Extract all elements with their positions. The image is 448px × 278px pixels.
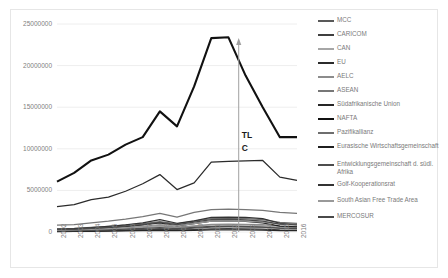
annotation-c: C	[242, 143, 248, 153]
legend-item[interactable]: AELC	[318, 72, 444, 80]
y-axis-tick: 15000000	[0, 103, 52, 110]
x-axis-tick: 2010	[197, 224, 204, 238]
y-axis-tick: 0	[0, 228, 52, 235]
x-axis-tick: 2011	[214, 224, 221, 238]
x-axis-tick: 2002	[60, 224, 67, 238]
legend-item[interactable]: EU	[318, 58, 444, 66]
legend-item-label: EU	[337, 58, 346, 66]
legend-swatch-icon	[318, 104, 334, 106]
legend-item-label: Eurasische Wirtschaftsgemeinschaft	[337, 142, 439, 150]
y-axis-tick: 5000000	[0, 186, 52, 193]
legend-swatch-icon	[318, 164, 334, 166]
legend-swatch-icon	[318, 184, 334, 186]
legend-swatch-icon	[318, 216, 334, 218]
x-axis-tick: 2005	[111, 224, 118, 238]
x-axis-tick: 2008	[163, 224, 170, 238]
x-axis-tick: 2009	[180, 224, 187, 238]
x-axis-tick: 2007	[146, 224, 153, 238]
legend-item[interactable]: MCC	[318, 16, 444, 24]
legend-item-label: South Asian Free Trade Area	[337, 196, 418, 204]
legend-item[interactable]: Golf-Kooperationsrat	[318, 180, 444, 188]
x-axis-tick: 2015	[283, 224, 290, 238]
legend-swatch-icon	[318, 146, 334, 148]
legend-swatch-icon	[318, 76, 334, 78]
annotation-tl: TL	[242, 130, 252, 140]
legend-item-label: ASEAN	[337, 86, 358, 94]
legend-item-label: Südafrikanische Union	[337, 100, 400, 108]
legend-swatch-icon	[318, 200, 334, 202]
legend-swatch-icon	[318, 90, 334, 92]
legend-item-label: CARICOM	[337, 30, 367, 38]
legend-swatch-icon	[318, 132, 334, 134]
legend-item[interactable]: South Asian Free Trade Area	[318, 196, 444, 204]
event-marker-line	[236, 38, 241, 232]
legend-item-label: NAFTA	[337, 114, 357, 122]
legend-item[interactable]: NAFTA	[318, 114, 444, 122]
legend-item[interactable]: Eurasische Wirtschaftsgemeinschaft	[318, 142, 444, 150]
legend-item-label: Entwicklungsgemeinschaft d. südl. Afrika	[337, 160, 441, 175]
y-axis-tick: 20000000	[0, 62, 52, 69]
y-axis-tick: 10000000	[0, 145, 52, 152]
y-axis-tick: 25000000	[0, 20, 52, 27]
series-lines	[57, 37, 297, 231]
x-axis-tick: 2014	[266, 224, 273, 238]
legend-item[interactable]: ASEAN	[318, 86, 444, 94]
x-axis-tick: 2004	[94, 224, 101, 238]
legend-swatch-icon	[318, 48, 334, 50]
gridlines	[57, 24, 297, 232]
x-axis-tick: 2013	[249, 224, 256, 238]
series-line	[57, 160, 297, 206]
legend-item-label: AELC	[337, 72, 353, 80]
legend-item-label: MCC	[337, 16, 351, 24]
x-axis-tick: 2003	[77, 224, 84, 238]
legend-swatch-icon	[318, 20, 334, 22]
legend-item-label: CAN	[337, 44, 350, 52]
chart-legend: MCCCARICOMCANEUAELCASEANSüdafrikanische …	[318, 16, 444, 236]
legend-item[interactable]: Südafrikanische Union	[318, 100, 444, 108]
legend-item[interactable]: CAN	[318, 44, 444, 52]
legend-item-label: Pazifikallianz	[337, 128, 373, 136]
legend-item-label: MERCOSUR	[337, 212, 374, 220]
legend-swatch-icon	[318, 34, 334, 36]
legend-swatch-icon	[318, 62, 334, 64]
legend-item[interactable]: Pazifikallianz	[318, 128, 444, 136]
x-axis-tick: 2006	[129, 224, 136, 238]
legend-swatch-icon	[318, 118, 334, 120]
legend-item-label: Golf-Kooperationsrat	[337, 180, 395, 188]
x-axis-tick: 2016	[300, 224, 307, 238]
legend-item[interactable]: Entwicklungsgemeinschaft d. südl. Afrika	[318, 160, 444, 175]
legend-item[interactable]: MERCOSUR	[318, 212, 444, 220]
x-axis-tick: 2012	[231, 224, 238, 238]
legend-item[interactable]: CARICOM	[318, 30, 444, 38]
